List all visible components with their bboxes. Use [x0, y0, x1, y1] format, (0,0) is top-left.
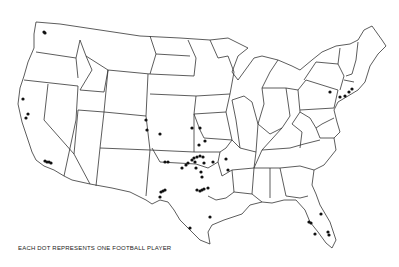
player-dot	[199, 170, 202, 173]
player-dot	[203, 139, 206, 142]
player-dot	[343, 94, 346, 97]
player-dot	[190, 126, 193, 129]
player-dot	[21, 97, 24, 100]
player-dots	[21, 30, 353, 236]
player-dot	[180, 166, 183, 169]
player-dot	[198, 154, 201, 157]
map-legend: EACH DOT REPRESENTS ONE FOOTBALL PLAYER	[18, 245, 171, 251]
player-dot	[193, 160, 196, 163]
player-dot	[24, 116, 27, 119]
us-map	[0, 0, 399, 267]
player-dot	[313, 232, 316, 235]
player-dot	[327, 233, 330, 236]
player-dot	[163, 160, 166, 163]
player-dot	[158, 132, 161, 135]
player-dot	[350, 87, 353, 90]
player-dot	[206, 186, 209, 189]
player-dot	[347, 90, 350, 93]
player-dot	[211, 160, 214, 163]
player-dot	[226, 168, 229, 171]
player-dot	[326, 230, 329, 233]
player-dot	[158, 195, 161, 198]
player-dot	[197, 143, 200, 146]
player-dot	[224, 157, 227, 160]
player-dot	[195, 155, 198, 158]
player-dot	[186, 161, 189, 164]
player-dot	[338, 95, 341, 98]
player-dot	[198, 126, 201, 129]
player-dot	[145, 128, 148, 131]
player-dot	[319, 212, 322, 215]
player-dot	[195, 188, 198, 191]
player-dot	[328, 90, 331, 93]
player-dot	[144, 118, 147, 121]
player-dot	[194, 166, 197, 169]
player-dot	[26, 112, 29, 115]
player-dot	[163, 188, 166, 191]
player-dot	[200, 175, 203, 178]
player-dot	[202, 187, 205, 190]
state-outlines	[18, 22, 386, 248]
player-dot	[166, 160, 169, 163]
player-dot	[49, 161, 52, 164]
player-dot	[309, 221, 312, 224]
player-dot	[201, 155, 204, 158]
player-dot	[192, 156, 195, 159]
player-dot	[202, 161, 205, 164]
player-dot	[208, 215, 211, 218]
player-dot	[188, 226, 191, 229]
us-outline	[18, 22, 386, 248]
player-dot	[43, 31, 46, 34]
